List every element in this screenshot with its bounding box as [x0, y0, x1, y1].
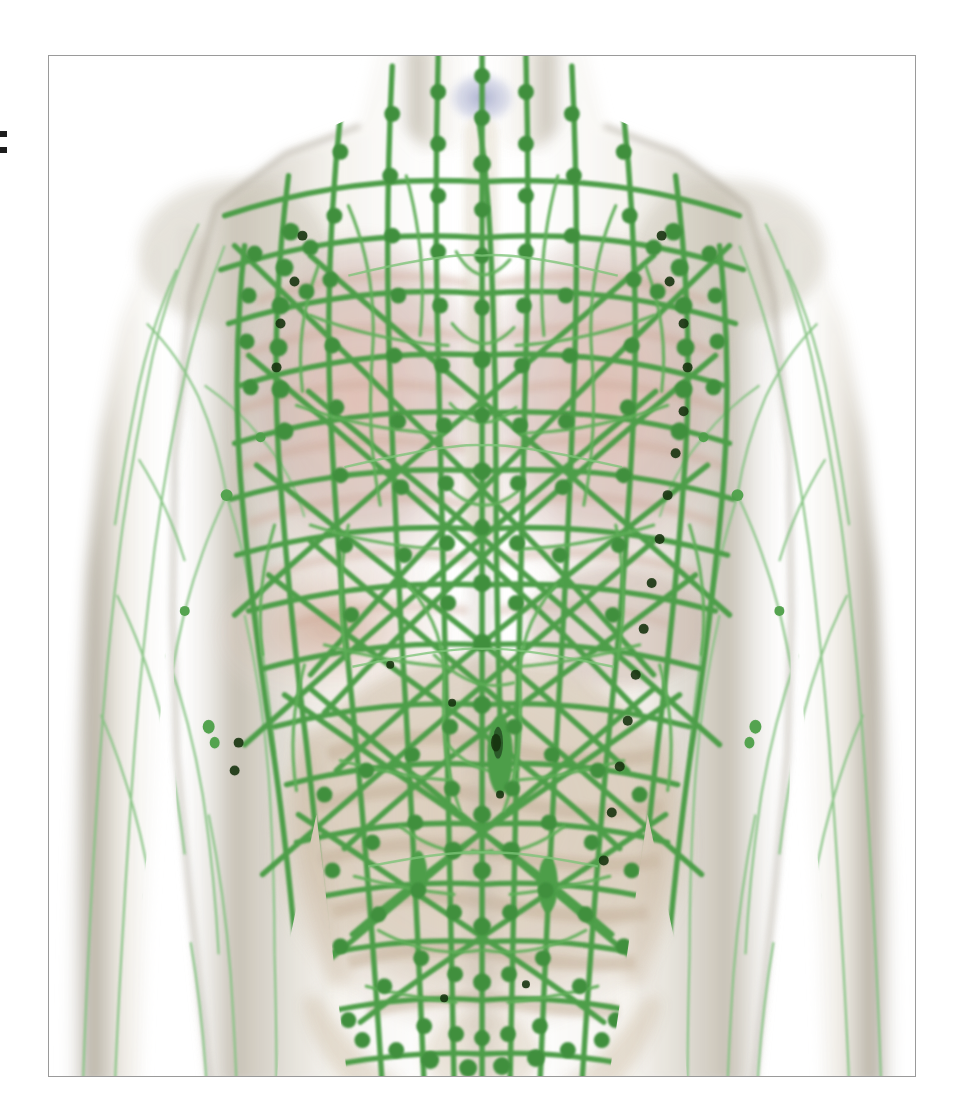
page-background	[0, 0, 959, 1116]
page-margin-text-artifact	[0, 131, 7, 153]
figure-frame	[48, 55, 916, 1077]
lymphatic-system-illustration	[49, 56, 915, 1076]
